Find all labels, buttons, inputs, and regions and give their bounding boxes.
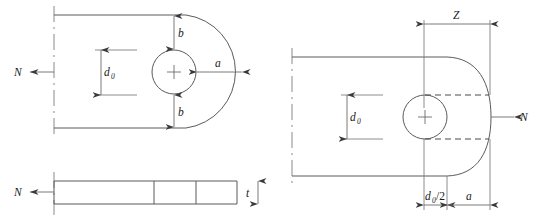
left-a-label: a xyxy=(215,57,221,69)
right-d0-label: d xyxy=(350,111,356,123)
left-plate-round-end xyxy=(186,15,235,128)
right-a-label: a xyxy=(466,190,472,202)
left-view-group: N d 0 b b a N t xyxy=(13,6,258,215)
left-b-top-label: b xyxy=(178,27,184,39)
engineering-figure: N d 0 b b a N t xyxy=(0,0,542,221)
right-d0-subscript: 0 xyxy=(357,117,361,126)
left-section-outline xyxy=(54,181,237,204)
left-force-label-section: N xyxy=(13,186,23,198)
left-pin-centre-cross xyxy=(167,65,181,79)
right-half-hole-label: d xyxy=(425,190,431,202)
figure-canvas: N d 0 b b a N t xyxy=(0,0,542,221)
left-b-bottom-label: b xyxy=(178,106,184,118)
right-pin-centre-cross xyxy=(418,110,432,124)
right-force-label: N xyxy=(519,111,529,123)
left-t-label: t xyxy=(246,187,250,199)
right-z-label: Z xyxy=(453,9,460,21)
left-d0-subscript: 0 xyxy=(111,72,115,81)
left-d0-label: d xyxy=(104,66,110,78)
right-half-hole-suffix: /2 xyxy=(436,190,445,202)
right-plate-curved-end xyxy=(447,57,491,176)
right-view-group: N d 0 Z d 0 /2 a xyxy=(292,9,529,210)
left-force-label-plan: N xyxy=(13,66,23,78)
